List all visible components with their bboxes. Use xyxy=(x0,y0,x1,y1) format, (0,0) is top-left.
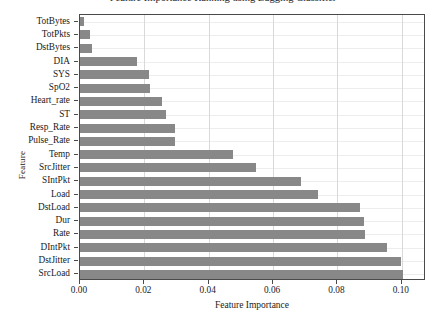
y-tick-label: Temp xyxy=(49,149,70,159)
x-tick-mark xyxy=(272,280,273,284)
x-tick-mark xyxy=(401,280,402,284)
y-tick-mark xyxy=(74,114,78,115)
y-tick-mark xyxy=(74,207,78,208)
bar xyxy=(80,163,256,172)
x-axis-label-text: Feature Importance xyxy=(157,300,289,310)
bar xyxy=(80,257,401,266)
y-tick-label: SrcLoad xyxy=(39,268,71,278)
bar xyxy=(80,150,233,159)
y-tick-label: Rate xyxy=(53,228,70,238)
bar xyxy=(80,30,90,39)
y-tick-label: SrcJitter xyxy=(39,162,70,172)
y-tick-mark xyxy=(74,61,78,62)
y-tick-label: SpO2 xyxy=(49,82,70,92)
x-tick-label: 0.10 xyxy=(393,285,409,295)
bar xyxy=(80,17,84,26)
bar xyxy=(80,217,364,226)
x-tick-mark xyxy=(336,280,337,284)
y-tick-label: Pulse_Rate xyxy=(28,135,70,145)
chart-title-text: Feature Importance Ranking using Bagging… xyxy=(110,0,337,3)
bar xyxy=(80,137,175,146)
x-axis-ticks: 0.000.020.040.060.080.10 xyxy=(0,280,446,302)
bar xyxy=(80,177,301,186)
bar xyxy=(80,110,166,119)
y-axis-ticks: TotBytesTotPktsDstBytesDIASYSSpO2Heart_r… xyxy=(0,14,79,280)
y-tick-label: SYS xyxy=(53,69,70,79)
x-tick-label: 0.02 xyxy=(135,285,151,295)
x-tick-label: 0.00 xyxy=(71,285,87,295)
bar xyxy=(80,203,360,212)
bar xyxy=(80,124,175,133)
feature-importance-chart: Feature Importance Ranking using Bagging… xyxy=(0,0,446,327)
y-tick-label: Heart_rate xyxy=(31,95,70,105)
y-tick-mark xyxy=(74,273,78,274)
y-tick-label: DIntPkt xyxy=(41,242,70,252)
y-tick-mark xyxy=(74,154,78,155)
x-tick-label: 0.04 xyxy=(200,285,216,295)
y-tick-label: SIntPkt xyxy=(42,175,70,185)
y-tick-label: Load xyxy=(51,189,70,199)
bar xyxy=(80,44,92,53)
y-tick-mark xyxy=(74,127,78,128)
plot-area xyxy=(79,14,425,280)
y-tick-mark xyxy=(74,220,78,221)
x-tick-mark xyxy=(143,280,144,284)
bar xyxy=(80,230,365,239)
x-tick-label: 0.06 xyxy=(264,285,280,295)
y-tick-mark xyxy=(74,260,78,261)
y-tick-label: DstBytes xyxy=(36,42,70,52)
y-tick-mark xyxy=(74,233,78,234)
y-tick-mark xyxy=(74,74,78,75)
bar xyxy=(80,97,162,106)
x-tick-mark xyxy=(208,280,209,284)
y-tick-mark xyxy=(74,140,78,141)
y-tick-mark xyxy=(74,167,78,168)
bar-series xyxy=(80,15,424,279)
x-tick-mark xyxy=(79,280,80,284)
x-tick-label: 0.08 xyxy=(328,285,344,295)
y-tick-mark xyxy=(74,47,78,48)
bar xyxy=(80,190,318,199)
bar xyxy=(80,270,403,279)
y-tick-mark xyxy=(74,194,78,195)
y-tick-mark xyxy=(74,180,78,181)
y-tick-mark xyxy=(74,21,78,22)
y-tick-label: TotBytes xyxy=(37,16,70,26)
y-tick-label: Resp_Rate xyxy=(30,122,70,132)
y-tick-label: ST xyxy=(59,109,70,119)
bar xyxy=(80,243,387,252)
y-tick-mark xyxy=(74,34,78,35)
bar xyxy=(80,84,150,93)
y-tick-label: DstJitter xyxy=(38,255,70,265)
y-tick-label: DIA xyxy=(53,56,70,66)
y-tick-mark xyxy=(74,247,78,248)
x-axis-label: Feature Importance xyxy=(0,300,446,310)
y-tick-mark xyxy=(74,87,78,88)
y-tick-mark xyxy=(74,100,78,101)
chart-title-cropped: Feature Importance Ranking using Bagging… xyxy=(0,0,446,9)
y-tick-label: DstLoad xyxy=(38,202,70,212)
bar xyxy=(80,70,149,79)
y-tick-label: Dur xyxy=(56,215,70,225)
bar xyxy=(80,57,137,66)
y-tick-label: TotPkts xyxy=(42,29,70,39)
